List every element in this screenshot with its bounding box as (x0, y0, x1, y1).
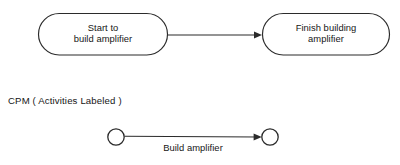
diagram-root: Start to build amplifier Finish building… (0, 0, 400, 165)
build-amplifier-arrow-head (254, 134, 262, 141)
build-amplifier-activity-label: Build amplifier (124, 142, 262, 153)
start-to-finish-arrow-head (254, 32, 262, 39)
event-node-finish-shape[interactable] (262, 129, 278, 145)
diagram-canvas (0, 0, 400, 165)
event-node-start-shape[interactable] (108, 129, 124, 145)
build-amplifier-arrow-line (125, 136, 259, 137)
aon-diagram-group (39, 14, 390, 56)
cpm-caption: CPM ( Activities Labeled ) (8, 95, 122, 107)
finish-node-shape[interactable] (263, 14, 390, 56)
start-node-shape[interactable] (39, 14, 168, 56)
